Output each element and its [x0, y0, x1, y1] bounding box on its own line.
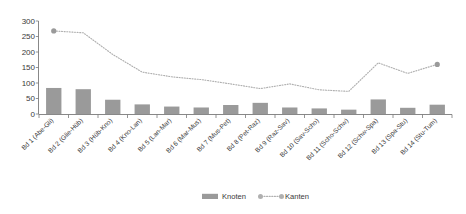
y-axis-tick-label: 150 — [22, 63, 36, 72]
kanten-dotted-line — [54, 31, 438, 91]
legend-label-kanten: Kanten — [285, 192, 309, 201]
legend-swatch-knoten — [202, 194, 218, 199]
bar — [223, 105, 238, 114]
chart-legend: KnotenKanten — [202, 192, 309, 201]
bar — [194, 107, 209, 114]
line-data-point-marker — [435, 62, 440, 67]
bar — [253, 103, 268, 114]
bar — [341, 110, 356, 114]
chart-container: 050100150200250300 Bd 1 (Abe-Gli)Bd 2 (G… — [0, 0, 466, 214]
legend-label-knoten: Knoten — [222, 192, 246, 201]
line-data-point-marker — [51, 28, 56, 33]
legend-marker-dot-kanten — [258, 194, 263, 199]
y-axis-tick-label: 0 — [31, 110, 36, 119]
bar — [164, 107, 179, 114]
legend-marker-dot2-kanten — [279, 194, 284, 199]
bar — [105, 100, 120, 114]
bar — [282, 107, 297, 114]
y-axis-tick-label: 200 — [22, 48, 36, 57]
x-axis-tick-marks — [39, 115, 452, 119]
bar — [135, 104, 150, 114]
y-axis-tick-labels: 050100150200250300 — [22, 17, 36, 119]
chart-svg: 050100150200250300 Bd 1 (Abe-Gli)Bd 2 (G… — [0, 0, 466, 214]
y-axis-tick-label: 250 — [22, 32, 36, 41]
bar — [76, 89, 91, 114]
bar — [400, 108, 415, 114]
bar — [312, 108, 327, 114]
bar — [371, 99, 386, 114]
y-axis-tick-label: 300 — [22, 17, 36, 26]
bar — [430, 105, 445, 114]
y-axis-tick-label: 100 — [22, 79, 36, 88]
axis-lines — [39, 21, 453, 115]
line-series-kanten — [51, 28, 440, 91]
x-axis-category-labels: Bd 1 (Abe-Gli)Bd 2 (Glie-Hüb)Bd 3 (Hüb-K… — [20, 117, 439, 162]
bar — [46, 88, 61, 114]
bar-series-knoten — [46, 88, 445, 114]
y-axis-tick-label: 50 — [26, 94, 35, 103]
